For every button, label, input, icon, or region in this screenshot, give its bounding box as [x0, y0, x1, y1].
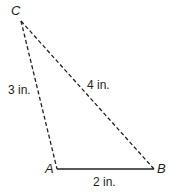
vertex-label-c: C: [11, 3, 20, 18]
vertex-label-b: B: [157, 161, 166, 176]
side-label-ca: 3 in.: [8, 83, 31, 97]
side-label-ab: 2 in.: [93, 175, 116, 189]
side-cb: [21, 21, 154, 169]
vertex-label-a: A: [45, 161, 54, 176]
side-label-cb: 4 in.: [87, 78, 110, 92]
